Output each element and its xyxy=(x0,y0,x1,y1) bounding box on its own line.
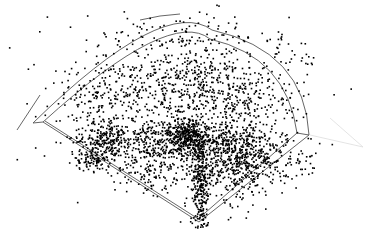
data-point xyxy=(220,143,222,145)
data-point xyxy=(166,115,168,117)
data-point xyxy=(175,84,177,86)
data-point xyxy=(194,96,196,98)
data-point xyxy=(195,188,197,190)
data-point xyxy=(199,119,201,121)
data-point xyxy=(161,139,163,141)
data-point xyxy=(249,152,251,154)
data-point xyxy=(147,182,149,184)
data-point xyxy=(144,182,146,184)
data-point xyxy=(216,195,218,197)
data-point xyxy=(94,88,96,90)
data-point xyxy=(170,185,172,187)
data-point xyxy=(97,148,99,150)
data-point xyxy=(196,192,198,194)
data-point xyxy=(242,156,244,158)
data-point xyxy=(147,189,149,191)
data-point xyxy=(196,145,198,147)
data-point xyxy=(95,70,97,72)
data-point xyxy=(211,158,213,160)
data-point xyxy=(261,131,263,133)
data-point xyxy=(127,66,129,68)
data-point xyxy=(264,166,266,168)
data-point xyxy=(215,100,217,102)
data-point xyxy=(231,102,233,104)
data-point xyxy=(143,90,145,92)
data-point xyxy=(216,178,218,180)
data-point xyxy=(246,145,248,147)
data-point xyxy=(99,116,101,118)
data-point xyxy=(135,51,137,53)
data-point xyxy=(182,121,184,123)
data-point xyxy=(217,159,219,161)
data-point xyxy=(300,150,302,152)
data-point xyxy=(205,47,207,49)
data-point xyxy=(141,82,143,84)
data-point xyxy=(146,170,148,172)
data-point xyxy=(130,181,132,183)
data-point xyxy=(181,179,183,181)
data-point xyxy=(218,75,220,77)
data-point xyxy=(147,150,149,152)
data-point xyxy=(197,218,199,220)
data-point xyxy=(210,161,212,163)
data-point xyxy=(101,134,103,136)
data-point xyxy=(230,205,232,207)
data-point xyxy=(90,155,92,157)
data-point xyxy=(103,119,105,121)
data-point xyxy=(256,173,258,175)
data-point xyxy=(134,88,136,90)
data-point xyxy=(79,149,81,151)
data-point xyxy=(136,75,138,77)
data-point xyxy=(235,96,237,98)
data-point xyxy=(226,126,228,128)
data-point xyxy=(103,140,105,142)
data-point xyxy=(185,144,187,146)
data-point xyxy=(265,194,267,196)
data-point xyxy=(186,164,188,166)
data-point xyxy=(248,97,250,99)
data-point xyxy=(233,120,235,122)
data-point xyxy=(213,102,215,104)
data-point xyxy=(108,141,110,143)
data-point xyxy=(99,137,101,139)
data-point xyxy=(155,177,157,179)
data-point xyxy=(259,130,261,132)
data-point xyxy=(253,161,255,163)
data-point xyxy=(193,128,195,130)
data-point xyxy=(164,145,166,147)
data-point xyxy=(92,157,94,159)
data-point xyxy=(215,160,217,162)
data-point xyxy=(147,128,149,130)
data-point xyxy=(294,54,296,56)
data-point xyxy=(229,61,231,63)
data-point xyxy=(248,146,250,148)
data-point xyxy=(140,166,142,168)
data-point xyxy=(201,224,203,226)
data-point xyxy=(181,119,183,121)
data-point xyxy=(100,131,102,133)
data-point xyxy=(306,156,308,158)
data-point xyxy=(222,82,224,84)
data-point xyxy=(250,178,252,180)
data-point xyxy=(198,178,200,180)
data-point xyxy=(166,180,168,182)
data-point xyxy=(255,90,257,92)
data-point xyxy=(76,117,78,119)
data-point xyxy=(168,127,170,129)
data-point xyxy=(242,151,244,153)
data-point xyxy=(220,112,222,114)
data-point xyxy=(245,136,247,138)
data-point xyxy=(229,66,231,68)
data-point xyxy=(255,150,257,152)
data-point xyxy=(102,153,104,155)
data-point xyxy=(287,176,289,178)
data-point xyxy=(242,91,244,93)
data-point xyxy=(303,117,305,119)
data-point xyxy=(204,62,206,64)
data-point xyxy=(84,95,86,97)
data-point xyxy=(289,61,291,63)
data-point xyxy=(114,147,116,149)
data-point xyxy=(81,154,83,156)
faint-outer-lines xyxy=(310,118,363,147)
data-point xyxy=(305,43,307,45)
